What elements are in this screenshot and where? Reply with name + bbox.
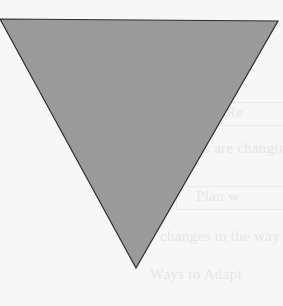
inverted-triangle-figure <box>0 0 283 306</box>
page: Re lines are changing Plan w changes in … <box>0 0 283 306</box>
triangle-shape <box>0 19 278 268</box>
